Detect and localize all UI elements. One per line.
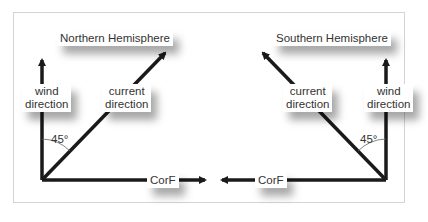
- south-current-label: current direction: [283, 84, 332, 112]
- south-wind-label: wind direction: [364, 84, 413, 112]
- south-current-arrow: [263, 53, 386, 180]
- south-title: Southern Hemisphere: [273, 31, 391, 46]
- south-angle-label: 45°: [360, 133, 377, 145]
- southern-vectors: [222, 53, 386, 180]
- north-current-arrow: [42, 53, 165, 180]
- south-corf-label: CorF: [255, 173, 287, 188]
- north-current-label: current direction: [102, 84, 151, 112]
- north-title: Northern Hemisphere: [57, 31, 173, 46]
- north-corf-label: CorF: [147, 173, 179, 188]
- northern-vectors: [42, 53, 205, 180]
- north-wind-label: wind direction: [22, 84, 71, 112]
- north-angle-label: 45°: [51, 133, 68, 145]
